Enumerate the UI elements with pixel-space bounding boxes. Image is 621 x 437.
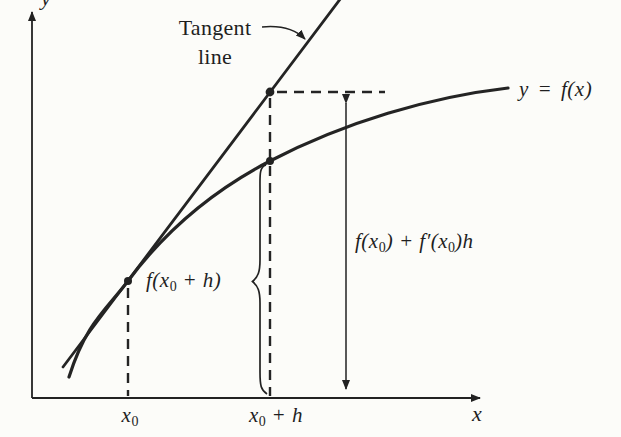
tangency-point-dot [124, 277, 132, 285]
tangent-line-label-row2: line [162, 42, 268, 71]
tangent-line-point-dot [266, 88, 275, 97]
linear-approx-part3: )h [455, 229, 474, 253]
linear-approx-subscript1: 0 [379, 240, 386, 255]
figure-canvas: Tangent line y = f(x) f(x0 + h) f(x0) + … [0, 0, 621, 437]
x0h-tick-var: x [249, 403, 259, 427]
f-x0-plus-h-brace [253, 165, 268, 394]
linear-approx-subscript2: 0 [448, 240, 455, 255]
f-x0-plus-h-label: f(x0 + h) [146, 268, 221, 295]
x0-tick-var: x [122, 403, 132, 427]
x0h-tick-subscript: 0 [259, 414, 266, 429]
tangent-label-arrow [262, 27, 305, 39]
curve-point-dot [266, 157, 274, 165]
x-axis-label: x [472, 401, 482, 427]
x0h-tick-rest: + h [266, 403, 303, 427]
linear-approx-part1: f(x [355, 229, 379, 253]
f-x0-plus-h-part1: f(x [146, 268, 170, 292]
f-x0-plus-h-subscript: 0 [170, 279, 177, 294]
x0-tick-label: x0 [112, 403, 148, 430]
linear-approx-part2: ) + f′(x [386, 229, 448, 253]
tangent-line-label-row1: Tangent [162, 13, 268, 42]
diagram-strokes [0, 0, 621, 437]
tangent-line-label: Tangent line [162, 13, 268, 71]
x0-plus-h-tick-label: x0 + h [237, 403, 315, 430]
curve-equation-label: y = f(x) [519, 77, 592, 102]
y-axis-label: y [41, 0, 51, 11]
f-x0-plus-h-part2: + h) [177, 268, 222, 292]
linear-approx-label: f(x0) + f′(x0)h [355, 229, 474, 256]
x0-tick-subscript: 0 [131, 414, 138, 429]
